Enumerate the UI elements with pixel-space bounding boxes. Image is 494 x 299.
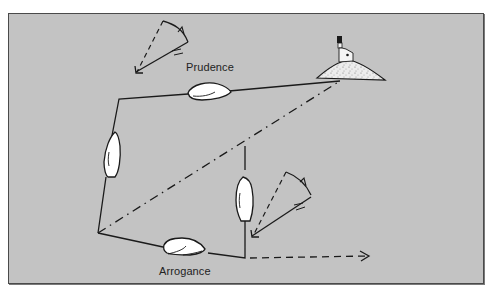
boat-prudence-icon bbox=[188, 83, 231, 100]
wind-shift-lower-icon bbox=[251, 172, 311, 237]
drift-arrow-icon bbox=[250, 251, 369, 261]
label-prudence: Prudence bbox=[186, 61, 234, 73]
boat-arrogance-icon bbox=[164, 238, 205, 255]
course-diagram bbox=[0, 0, 494, 299]
boat-left-tack-icon bbox=[104, 132, 120, 177]
boat-right-tack-icon bbox=[236, 177, 253, 221]
label-arrogance: Arrogance bbox=[159, 265, 211, 277]
wind-shift-top-icon bbox=[135, 21, 188, 73]
lighthouse-island-icon bbox=[317, 36, 385, 80]
rhumb-line bbox=[98, 81, 340, 233]
